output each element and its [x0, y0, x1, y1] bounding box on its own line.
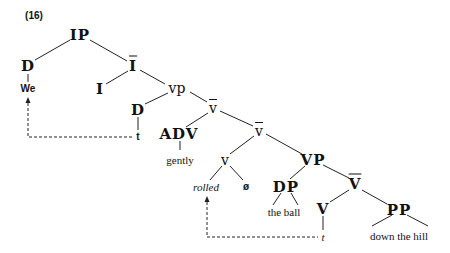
node-IP: IP: [70, 28, 90, 43]
node-v: v: [221, 153, 229, 167]
word-we: We: [21, 84, 36, 94]
node-VP: VP: [301, 153, 326, 168]
arrowhead-icon: [26, 97, 31, 103]
node-V-bar: V: [349, 177, 362, 192]
node-V: V: [317, 202, 330, 217]
phrase-the-ball: the ball: [268, 207, 301, 218]
phrase-down-the-hill: down the hill: [370, 231, 428, 242]
node-v-bar-2: v: [255, 124, 263, 138]
movement-arrow-verb: [207, 202, 318, 237]
node-I-bar: I: [129, 59, 137, 74]
arrowhead-icon: [205, 196, 210, 202]
node-D-subject: D: [21, 59, 35, 74]
node-I: I: [96, 82, 104, 97]
node-PP: PP: [387, 203, 412, 218]
tree-edges: [0, 0, 450, 253]
example-number: (16): [25, 11, 43, 21]
trace-verb: t: [321, 232, 324, 243]
node-vp: vp: [169, 81, 186, 95]
movement-arrow-subject: [28, 103, 132, 137]
node-D-trace: D: [131, 103, 145, 118]
node-ADV: ADV: [159, 127, 198, 142]
node-DP: DP: [273, 180, 299, 195]
word-rolled: rolled: [193, 182, 219, 193]
trace-subject: t: [136, 132, 139, 142]
null-head: ø: [243, 182, 249, 192]
word-gently: gently: [166, 155, 194, 166]
node-v-bar-1: v: [209, 101, 217, 115]
